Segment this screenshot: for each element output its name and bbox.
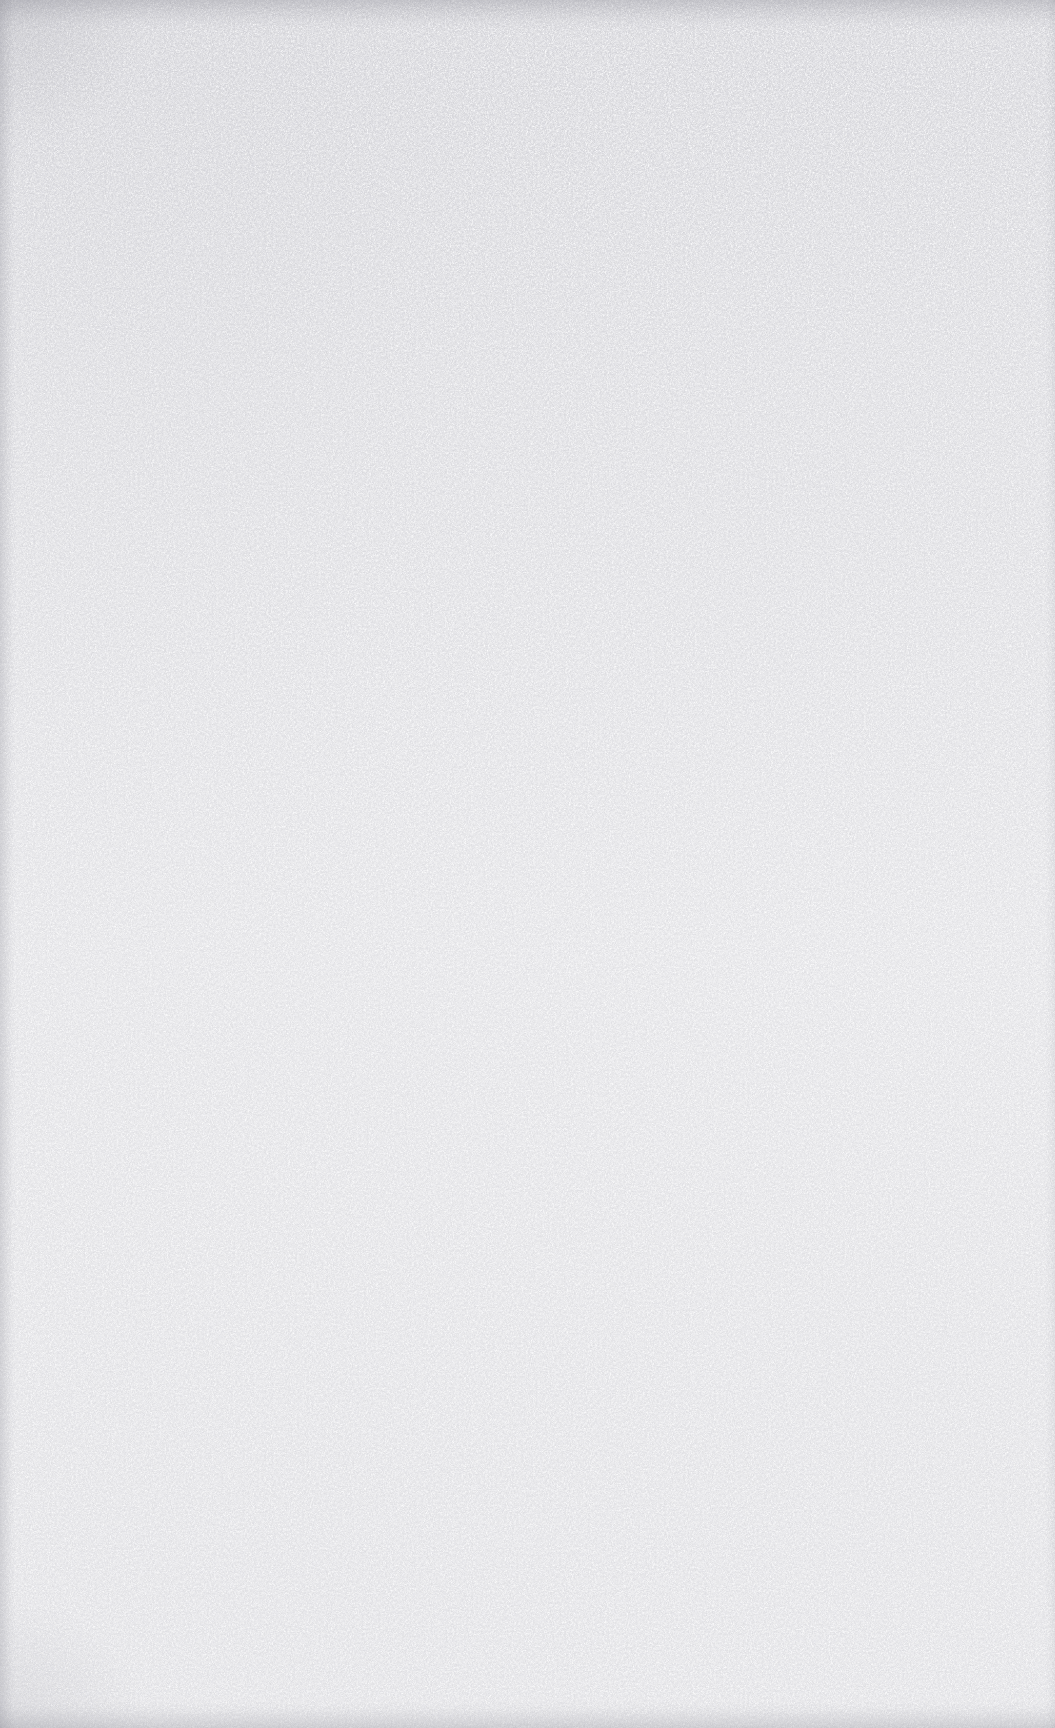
page-content-area bbox=[0, 0, 1055, 1728]
scanned-page bbox=[0, 0, 1055, 1728]
